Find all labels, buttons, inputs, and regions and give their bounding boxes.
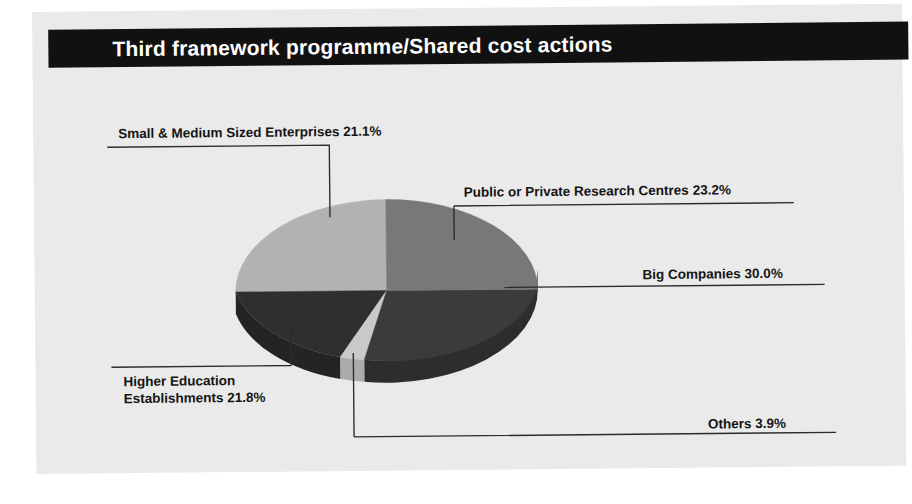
slice-label-higher-education: Higher Education Establishments 21.8% bbox=[123, 372, 265, 408]
chart-area: Small & Medium Sized Enterprises 21.1% P… bbox=[32, 4, 906, 474]
slice-label-others: Others 3.9% bbox=[708, 415, 786, 433]
slice-label-big-companies: Big Companies 30.0% bbox=[642, 265, 782, 284]
slice-label-higher-education-line1: Higher Education bbox=[123, 372, 265, 391]
slice-research-centres bbox=[386, 198, 538, 290]
slice-sme bbox=[235, 200, 387, 292]
leader-line-big-companies bbox=[505, 284, 825, 287]
slice-label-sme: Small & Medium Sized Enterprises 21.1% bbox=[118, 123, 381, 143]
slice-label-research-centres: Public or Private Research Centres 23.2% bbox=[464, 181, 731, 201]
leader-line-sme bbox=[107, 145, 330, 219]
chart-card: Third framework programme/Shared cost ac… bbox=[32, 4, 906, 474]
slice-side-others bbox=[340, 357, 364, 382]
slice-label-higher-education-line2: Establishments 21.8% bbox=[124, 389, 266, 408]
